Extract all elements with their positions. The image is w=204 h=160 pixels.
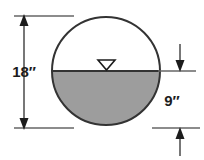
diameter-label: 18″ <box>12 63 36 80</box>
water-region <box>52 71 160 125</box>
arrow-down-icon <box>176 60 185 72</box>
figure-container: 18″ 9″ <box>0 0 204 160</box>
water-level-triangle-icon <box>98 60 115 70</box>
pipe-cross-section-diagram: 18″ 9″ <box>0 0 204 160</box>
arrow-up-icon <box>176 127 185 139</box>
depth-label: 9″ <box>164 92 180 109</box>
